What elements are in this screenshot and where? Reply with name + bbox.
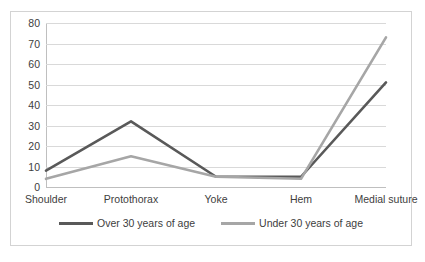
- y-tick-label-50: 50: [28, 79, 40, 90]
- y-tick-label-80: 80: [28, 18, 40, 29]
- gridline-0: [46, 187, 386, 188]
- legend-item-over-30-years-of-age[interactable]: Over 30 years of age: [59, 218, 195, 229]
- y-tick-label-10: 10: [28, 161, 40, 172]
- legend-swatch: [221, 222, 255, 225]
- series-line-over-30-years-of-age: [46, 82, 386, 176]
- legend-label: Over 30 years of age: [97, 218, 195, 229]
- y-tick-label-60: 60: [28, 59, 40, 70]
- y-tick-label-20: 20: [28, 141, 40, 152]
- y-tick-label-30: 30: [28, 120, 40, 131]
- x-tick-label-hem: Hem: [290, 194, 312, 205]
- x-tick-label-medial-suture: Medial suture: [354, 194, 417, 205]
- y-tick-label-40: 40: [28, 100, 40, 111]
- y-tick-label-0: 0: [34, 182, 40, 193]
- plot-area: 01020304050607080 ShoulderProtothoraxYok…: [46, 23, 386, 187]
- x-tick-label-protothorax: Protothorax: [104, 194, 158, 205]
- chart-legend: Over 30 years of ageUnder 30 years of ag…: [11, 218, 411, 229]
- legend-label: Under 30 years of age: [259, 218, 363, 229]
- legend-item-under-30-years-of-age[interactable]: Under 30 years of age: [221, 218, 363, 229]
- legend-swatch: [59, 222, 93, 225]
- series-lines: [46, 23, 386, 187]
- x-tick-label-shoulder: Shoulder: [25, 194, 67, 205]
- x-tick-label-yoke: Yoke: [205, 194, 228, 205]
- series-line-under-30-years-of-age: [46, 37, 386, 178]
- chart-frame: 01020304050607080 ShoulderProtothoraxYok…: [10, 11, 412, 246]
- y-tick-label-70: 70: [28, 38, 40, 49]
